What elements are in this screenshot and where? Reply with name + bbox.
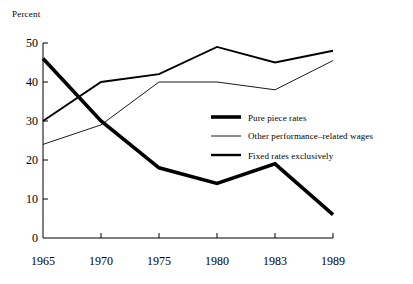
line-chart: Percent 50 40 30 20 10 0 1965 1970 1975 … [0, 0, 413, 284]
plot-area [0, 0, 413, 284]
series-line-fixed-rates-exclusively [43, 47, 333, 121]
series-line-other-performance-related-wages [43, 61, 333, 145]
